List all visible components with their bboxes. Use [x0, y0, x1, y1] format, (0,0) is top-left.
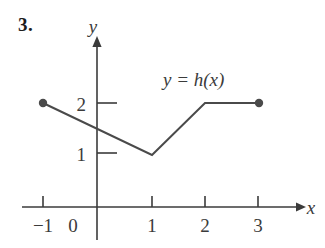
x-tick-label-2: 2: [200, 215, 210, 236]
graph-plot: −1 0 1 2 3 2 1 x y y = h(x): [0, 0, 325, 248]
curve-h-of-x: [43, 103, 259, 155]
x-tick-label--1: −1: [33, 215, 53, 236]
x-axis-arrowhead: [296, 203, 306, 212]
curve-equation-label: y = h(x): [161, 69, 224, 91]
x-tick-label-3: 3: [253, 215, 263, 236]
x-tick-label-0: 0: [68, 215, 78, 236]
x-tick-label-1: 1: [147, 215, 157, 236]
endpoint-dot-right: [255, 99, 263, 107]
y-tick-label-2: 2: [77, 94, 87, 115]
x-axis-label: x: [306, 197, 316, 218]
figure-container: 3. −1 0 1 2 3 2 1 x y: [0, 0, 325, 248]
y-axis-arrowhead: [92, 36, 101, 47]
y-tick-label-1: 1: [77, 144, 87, 165]
endpoint-dot-left: [39, 99, 47, 107]
y-axis-label: y: [87, 16, 98, 37]
